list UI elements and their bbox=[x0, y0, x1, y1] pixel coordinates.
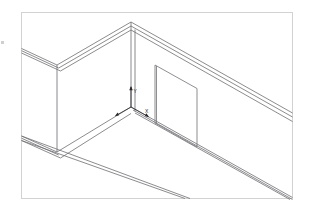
y-axis-label: Y bbox=[134, 88, 138, 94]
axis-indicator: Y X bbox=[115, 86, 149, 117]
edge-artifact bbox=[1, 41, 4, 44]
left-wall-base-mid-edge bbox=[22, 138, 59, 155]
cad-drawing: Y X bbox=[0, 0, 311, 212]
left-wall-top-inner-edge bbox=[22, 30, 132, 71]
front-floor-inner-edge bbox=[22, 141, 186, 199]
y-axis-arrowhead bbox=[129, 86, 133, 90]
z-axis-arrowhead bbox=[115, 112, 119, 116]
room-geometry: Y X bbox=[22, 22, 293, 200]
x-axis-label: X bbox=[145, 108, 149, 114]
left-wall-base-to-corner-edge bbox=[57, 107, 131, 152]
front-floor-outer-edge bbox=[22, 136, 191, 199]
interior-panel bbox=[155, 65, 197, 147]
drawing-canvas: Y X bbox=[0, 0, 311, 212]
left-wall-inner-base-edge bbox=[61, 114, 132, 159]
